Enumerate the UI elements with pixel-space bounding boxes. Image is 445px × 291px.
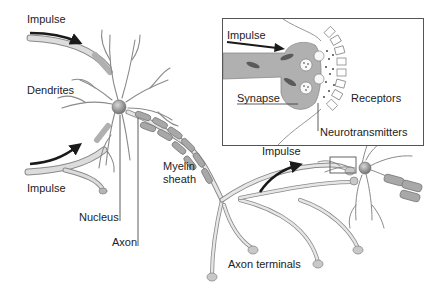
nucleus-left bbox=[112, 100, 126, 114]
label-myelin: Myelin bbox=[163, 160, 195, 172]
label-impulse-bottom: Impulse bbox=[27, 182, 66, 194]
myelin-sheath-right bbox=[383, 174, 422, 203]
inset-impulse-label: Impulse bbox=[227, 29, 266, 41]
label-nucleus: Nucleus bbox=[79, 211, 119, 223]
label-impulse-right: Impulse bbox=[262, 145, 301, 157]
label-dendrites: Dendrites bbox=[27, 84, 74, 96]
inset-receptors-label: Receptors bbox=[351, 92, 401, 104]
nucleus-right bbox=[359, 162, 371, 174]
label-axon-terminals: Axon terminals bbox=[228, 258, 301, 270]
synapse-inset: Impulse Synapse Receptors Neurotransmitt… bbox=[222, 18, 424, 146]
impulse-arrow-bottom bbox=[30, 146, 78, 164]
label-sheath: sheath bbox=[163, 173, 196, 185]
inset-neurotransmitters-label: Neurotransmitters bbox=[320, 126, 407, 138]
label-axon: Axon bbox=[112, 236, 137, 248]
label-impulse-top: Impulse bbox=[27, 13, 66, 25]
incoming-axon-top bbox=[30, 38, 110, 72]
inset-synapse-label: Synapse bbox=[237, 92, 280, 104]
